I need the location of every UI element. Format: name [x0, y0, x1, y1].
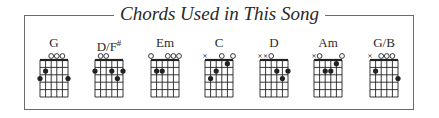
chord-diagram: G/B×: [356, 36, 412, 106]
finger-dot-icon: [37, 76, 42, 81]
open-string-icon: [231, 54, 236, 59]
finger-dot-icon: [65, 76, 70, 81]
muted-string-icon: ×: [367, 52, 372, 60]
open-string-icon: [269, 54, 274, 59]
fretboard-grid: [26, 50, 82, 100]
finger-dot-icon: [395, 76, 400, 81]
fretboard-grid: [137, 50, 193, 100]
chord-diagram: D××: [246, 36, 302, 106]
open-string-icon: [171, 54, 176, 59]
finger-dot-icon: [225, 61, 230, 66]
finger-dot-icon: [334, 61, 339, 66]
open-string-icon: [219, 54, 224, 59]
open-string-icon: [177, 54, 182, 59]
chord-name-text: G: [49, 35, 58, 50]
chord-name: G: [26, 36, 82, 50]
open-string-icon: [60, 54, 65, 59]
sharp-symbol: #: [117, 38, 122, 48]
finger-dot-icon: [160, 69, 165, 74]
finger-dot-icon: [43, 69, 48, 74]
open-string-icon: [98, 54, 103, 59]
chord-name-text: Em: [156, 35, 174, 50]
open-string-icon: [149, 54, 154, 59]
finger-dot-icon: [280, 76, 285, 81]
chord-name: Am: [300, 36, 356, 50]
finger-dot-icon: [373, 69, 378, 74]
chord-name: Em: [137, 36, 193, 50]
finger-dot-icon: [285, 69, 290, 74]
muted-string-icon: ×: [311, 52, 316, 60]
finger-dot-icon: [274, 69, 279, 74]
finger-dot-icon: [115, 76, 120, 81]
finger-dot-icon: [328, 69, 333, 74]
chord-name: C: [191, 36, 247, 50]
finger-dot-icon: [323, 69, 328, 74]
fretboard-grid: [81, 50, 137, 100]
finger-dot-icon: [208, 76, 213, 81]
open-string-icon: [340, 54, 345, 59]
chord-diagram: Em: [137, 36, 193, 106]
open-string-icon: [49, 54, 54, 59]
chord-name-text: D: [269, 35, 278, 50]
fretboard-grid: ×: [300, 50, 356, 100]
chords-title: Chords Used in This Song: [0, 1, 439, 27]
chord-diagram: Am×: [300, 36, 356, 106]
open-string-icon: [54, 54, 59, 59]
open-string-icon: [390, 54, 395, 59]
open-string-icon: [317, 54, 322, 59]
finger-dot-icon: [214, 69, 219, 74]
open-string-icon: [104, 54, 109, 59]
open-string-icon: [384, 54, 389, 59]
chord-name-text: G/B: [373, 35, 395, 50]
chord-name-text: C: [215, 35, 224, 50]
chord-diagram: G: [26, 36, 82, 106]
muted-string-icon: ×: [202, 52, 207, 60]
fretboard-grid: ×: [191, 50, 247, 100]
finger-dot-icon: [109, 69, 114, 74]
chord-diagram: C×: [191, 36, 247, 106]
fretboard-grid: ×: [356, 50, 412, 100]
muted-string-icon: ×: [263, 52, 268, 60]
chords-title-text: Chords Used in This Song: [114, 3, 325, 24]
open-string-icon: [165, 54, 170, 59]
chord-name: G/B: [356, 36, 412, 50]
finger-dot-icon: [120, 69, 125, 74]
finger-dot-icon: [92, 69, 97, 74]
chord-diagram: D/F#: [81, 36, 137, 106]
fretboard-grid: ××: [246, 50, 302, 100]
open-string-icon: [379, 54, 384, 59]
chord-name: D: [246, 36, 302, 50]
chord-name-text: Am: [318, 35, 338, 50]
finger-dot-icon: [154, 69, 159, 74]
